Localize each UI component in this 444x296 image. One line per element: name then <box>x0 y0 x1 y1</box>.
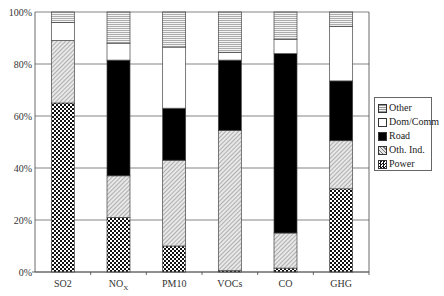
bar-segment-dom-comm <box>274 39 297 53</box>
legend-item: Oth. Ind. <box>378 143 431 157</box>
legend-label: Oth. Ind. <box>389 143 425 157</box>
x-tick-label: SO2 <box>54 278 72 289</box>
bars: SO2NOXPM10VOCsCOGHG <box>51 12 369 292</box>
x-tick-label: NOX <box>109 278 129 292</box>
legend-label: Dom/Comm <box>389 115 439 129</box>
legend-label: Road <box>389 129 410 143</box>
legend-item: Dom/Comm <box>378 115 431 129</box>
bar-segment-dom-comm <box>163 47 186 108</box>
bar-segment-other <box>107 12 130 43</box>
y-tick-label: 20% <box>14 215 32 226</box>
legend-swatch-icon <box>378 160 387 169</box>
bar-segment-dom-comm <box>330 26 353 81</box>
bar-segment-oth-ind- <box>330 141 353 189</box>
bar-segment-power <box>330 189 353 272</box>
legend-label: Other <box>389 101 412 115</box>
bar-segment-dom-comm <box>218 52 241 60</box>
bar-segment-road <box>107 60 130 176</box>
bar-segment-other <box>51 12 74 22</box>
bar-segment-power <box>274 268 297 272</box>
x-tick-label: PM10 <box>162 278 186 289</box>
bar-segment-oth-ind- <box>163 160 186 246</box>
legend-swatch-icon <box>378 146 387 155</box>
legend: OtherDom/CommRoadOth. Ind.Power <box>374 97 432 171</box>
bar-segment-oth-ind- <box>274 233 297 268</box>
legend-swatch-icon <box>378 118 387 127</box>
bar-segment-road <box>330 81 353 141</box>
bar-segment-other <box>330 12 353 26</box>
y-tick-label: 60% <box>14 111 32 122</box>
bar-segment-dom-comm <box>107 43 130 60</box>
bar-segment-oth-ind- <box>51 41 74 103</box>
bar-segment-power <box>51 103 74 272</box>
bar-segment-oth-ind- <box>218 130 241 270</box>
axes <box>32 12 369 272</box>
y-tick-label: 0% <box>19 267 32 278</box>
legend-item: Road <box>378 129 431 143</box>
bar-segment-road <box>274 54 297 233</box>
bar-segment-power <box>107 217 130 272</box>
x-tick-label: VOCs <box>217 278 242 289</box>
y-tick-label: 40% <box>14 163 32 174</box>
bar-segment-road <box>163 108 186 160</box>
legend-label: Power <box>389 157 415 171</box>
legend-item: Other <box>378 101 431 115</box>
bar-segment-road <box>218 60 241 130</box>
y-tick-label: 80% <box>14 59 32 70</box>
legend-item: Power <box>378 157 431 171</box>
legend-swatch-icon <box>378 104 387 113</box>
bar-segment-other <box>274 12 297 39</box>
x-tick-label: CO <box>279 278 293 289</box>
bar-segment-dom-comm <box>51 22 74 40</box>
bar-segment-power <box>163 246 186 272</box>
legend-swatch-icon <box>378 132 387 141</box>
x-tick-label: GHG <box>330 278 352 289</box>
bar-segment-other <box>218 12 241 52</box>
bar-segment-oth-ind- <box>107 176 130 218</box>
y-tick-label: 100% <box>9 7 32 18</box>
bar-segment-other <box>163 12 186 47</box>
